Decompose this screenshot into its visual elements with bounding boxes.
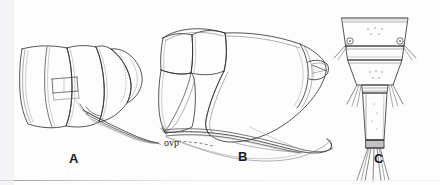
- illustration-plate: .ink { fill:none; stroke:#2b2b2b; stroke…: [0, 0, 440, 185]
- figure-label-a: A: [69, 152, 79, 165]
- annotation-label-ovp: ovp: [164, 138, 179, 148]
- scan-edge-smudge-left: [0, 0, 14, 185]
- scan-edge-line: [0, 180, 440, 181]
- figure-label-b: B: [238, 150, 248, 163]
- terminal-band-hatching: [367, 140, 383, 148]
- figure-label-c: C: [374, 152, 384, 165]
- figure-a-linework: [20, 46, 158, 144]
- figure-b-linework: [159, 29, 333, 161]
